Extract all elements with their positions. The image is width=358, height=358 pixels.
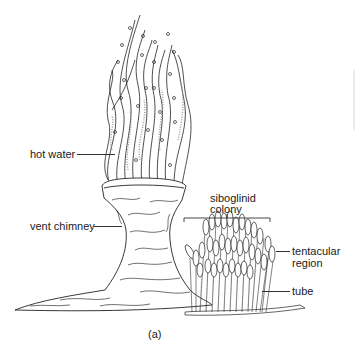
label-colony: colony <box>210 203 242 215</box>
leader-hot-water <box>77 154 115 155</box>
label-vent-chimney: vent chimney <box>30 220 95 232</box>
tentacular-plumes <box>183 211 275 279</box>
label-tube: tube <box>292 285 313 297</box>
label-region: region <box>292 257 323 269</box>
label-tentacular: tentacular <box>292 245 340 257</box>
vent-chimney <box>15 178 212 311</box>
hot-water-plume <box>105 15 191 185</box>
label-hot-water: hot water <box>30 148 75 160</box>
leader-tentacular-region <box>276 251 290 252</box>
vent-illustration <box>0 0 358 358</box>
leader-tube <box>262 291 290 292</box>
hydrothermal-vent-diagram: hot water vent chimney siboglinid colony… <box>0 0 358 358</box>
leader-vent-chimney <box>94 226 122 227</box>
panel-label: (a) <box>148 328 161 340</box>
